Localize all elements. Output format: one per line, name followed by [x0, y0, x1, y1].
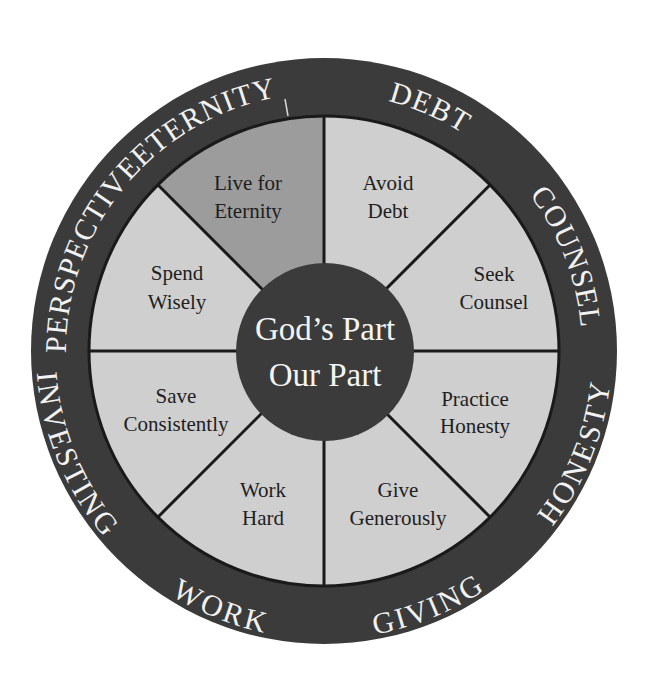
- sector-giving-line-1: Give: [378, 478, 419, 502]
- sector-investing-line-1: Save: [156, 384, 197, 408]
- sector-counsel-line-1: Seek: [474, 262, 515, 286]
- sector-counsel-line-2: Counsel: [460, 290, 529, 314]
- sector-honesty-line-1: Practice: [441, 387, 509, 411]
- sector-work-line-1: Work: [240, 478, 287, 502]
- financial-principles-wheel: God’s Part Our Part Live for Eternity Av…: [0, 0, 647, 689]
- hub-circle: [236, 263, 414, 441]
- sector-debt-line-1: Avoid: [363, 171, 414, 195]
- sector-perspective-line-1: Spend: [151, 261, 204, 285]
- sector-eternity-line-2: Eternity: [214, 199, 282, 223]
- sector-honesty-line-2: Honesty: [440, 414, 510, 438]
- sector-perspective-line-2: Wisely: [148, 290, 207, 314]
- sector-investing-line-2: Consistently: [123, 412, 229, 436]
- sector-giving-line-2: Generously: [350, 506, 447, 530]
- sector-debt-line-2: Debt: [368, 199, 409, 223]
- sector-work-line-2: Hard: [242, 506, 284, 530]
- hub-line-2: Our Part: [269, 357, 382, 393]
- sector-eternity-line-1: Live for: [214, 171, 282, 195]
- hub-line-1: God’s Part: [255, 311, 395, 347]
